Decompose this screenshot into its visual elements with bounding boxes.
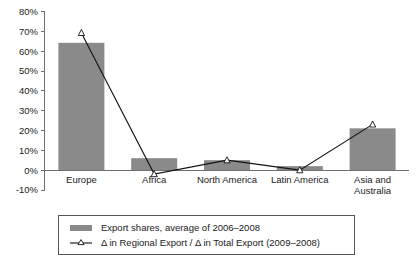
legend-item-delta-ratio: Δ in Regional Export / Δ in Total Export… (70, 237, 320, 248)
y-tick-label: 50% (19, 65, 39, 76)
bar (131, 158, 177, 170)
legend-label: Export shares, average of 2006–2008 (101, 222, 260, 233)
x-category-label: North America (197, 174, 258, 185)
y-tick-label: 60% (19, 46, 39, 57)
y-tick-label: 20% (19, 125, 39, 136)
x-category-label: Latin America (271, 174, 329, 185)
x-category-label: Africa (142, 174, 167, 185)
chart-figure: 80% 70% 60% 50% 40% 30% 20% 10% 0% -10% … (0, 0, 419, 268)
y-tick-label: 40% (19, 85, 39, 96)
y-tick-label: 0% (24, 165, 38, 176)
x-category-label: Europe (66, 174, 97, 185)
y-tick-label: 80% (19, 6, 39, 17)
y-tick-label: 30% (19, 105, 39, 116)
legend-swatch-icon (70, 225, 92, 231)
legend-label: Δ in Regional Export / Δ in Total Export… (101, 237, 320, 248)
x-category-label: Asia andAustralia (354, 174, 392, 196)
y-tick-label: 10% (19, 145, 39, 156)
y-tick-label: -10% (16, 184, 39, 195)
chart-container: 80% 70% 60% 50% 40% 30% 20% 10% 0% -10% … (0, 0, 419, 268)
bar (58, 43, 104, 170)
y-tick-label: 70% (19, 26, 39, 37)
legend: Export shares, average of 2006–2008 Δ in… (59, 216, 355, 255)
